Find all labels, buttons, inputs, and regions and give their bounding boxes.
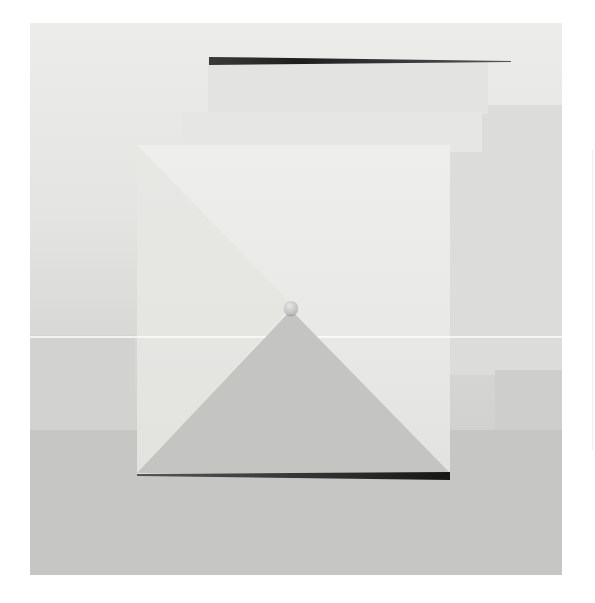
paper-edge — [592, 150, 593, 450]
mid-left-panel — [30, 335, 135, 430]
upper-back-rectangle — [208, 62, 488, 114]
triangle-shape — [137, 310, 450, 475]
right-lower-panel — [495, 370, 562, 430]
top-tapered-bar — [209, 57, 511, 65]
apex-knob — [284, 301, 298, 315]
bottom-bar — [137, 472, 450, 480]
